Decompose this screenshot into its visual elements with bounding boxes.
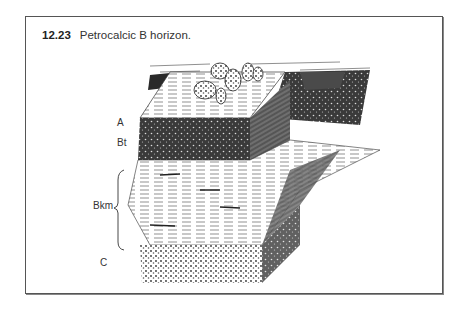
soil-profile-illustration — [0, 0, 466, 315]
bkm-bracket — [114, 170, 124, 250]
horizon-label-bt: Bt — [117, 137, 126, 148]
horizon-label-bkm: Bkm — [93, 200, 113, 211]
horizon-label-c: C — [100, 257, 107, 268]
horizon-label-a: A — [117, 117, 124, 128]
